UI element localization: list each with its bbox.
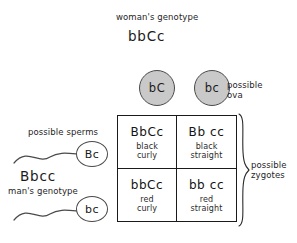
possible-ova-label: possible ova xyxy=(227,80,263,100)
zygote-cell-BbCc-phenotype: black curly xyxy=(136,142,158,161)
possible-ova-label-line1: possible xyxy=(227,80,263,90)
zygote-cell-Bbcc-phenotype-line1: black xyxy=(191,142,223,152)
zygote-cell-BbCc: BbCc black curly xyxy=(118,116,177,169)
womans-genotype-label: woman's genotype xyxy=(116,12,198,22)
ovum-bc: bc xyxy=(194,70,230,106)
zygote-cell-bbCc-phenotype-line1: red xyxy=(137,195,157,205)
zygote-cell-Bbcc-genotype: Bb cc xyxy=(189,125,225,139)
zygote-cell-bbcc-phenotype-line2: straight xyxy=(191,204,223,214)
punnett-square-diagram: woman's genotype bbCc bC bc possible ova… xyxy=(0,0,297,243)
ovum-bC: bC xyxy=(139,70,175,106)
sperm-bc-label: bc xyxy=(85,203,99,216)
zygote-cell-bbcc: bb cc red straight xyxy=(177,169,236,222)
possible-ova-label-line2: ova xyxy=(227,90,263,100)
sperm-bc: bc xyxy=(76,196,108,222)
zygote-cell-Bbcc-phenotype-line2: straight xyxy=(191,151,223,161)
ovum-bc-label: bc xyxy=(205,81,220,95)
mans-genotype-value: Bbcc xyxy=(20,169,56,184)
zygotes-brace-icon xyxy=(236,112,252,228)
ovum-bC-label: bC xyxy=(149,81,165,95)
zygote-cell-BbCc-phenotype-line1: black xyxy=(136,142,158,152)
zygote-cell-bbCc-genotype: bbCc xyxy=(131,178,164,192)
zygote-cell-bbCc: bbCc red curly xyxy=(118,169,177,222)
zygote-cell-Bbcc-phenotype: black straight xyxy=(191,142,223,161)
possible-zygotes-label-line2: zygotes xyxy=(251,170,287,180)
possible-zygotes-label: possible zygotes xyxy=(251,160,287,180)
zygote-cell-bbcc-phenotype-line1: red xyxy=(191,195,223,205)
zygote-cell-Bbcc: Bb cc black straight xyxy=(177,116,236,169)
zygote-cell-bbCc-phenotype: red curly xyxy=(137,195,157,214)
zygote-cell-BbCc-phenotype-line2: curly xyxy=(136,151,158,161)
punnett-square-grid: BbCc black curly Bb cc black straight bb… xyxy=(117,115,237,222)
zygote-cell-bbCc-phenotype-line2: curly xyxy=(137,204,157,214)
zygote-cell-bbcc-genotype: bb cc xyxy=(189,178,224,192)
sperm-Bc-label: Bc xyxy=(85,148,99,161)
possible-zygotes-label-line1: possible xyxy=(251,160,287,170)
womans-genotype-value: bbCc xyxy=(128,29,165,44)
mans-genotype-label: man's genotype xyxy=(8,186,78,196)
zygote-cell-BbCc-genotype: BbCc xyxy=(130,125,163,139)
sperm-Bc: Bc xyxy=(76,141,108,167)
zygote-cell-bbcc-phenotype: red straight xyxy=(191,195,223,214)
